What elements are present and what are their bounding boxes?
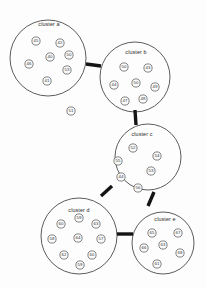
cluster-label-d: cluster d (68, 207, 89, 213)
node-label-63e: 63 (161, 242, 166, 247)
node-d-59[interactable]: 59 (75, 214, 83, 222)
node-label-53: 53 (65, 67, 70, 72)
node-label-43: 43 (146, 65, 151, 70)
node-label-46: 46 (27, 61, 32, 66)
node-c-56[interactable]: 56 (134, 184, 142, 192)
node-e-66[interactable]: 66 (140, 244, 148, 252)
node-label-57: 57 (99, 236, 104, 241)
node-label-62: 62 (62, 252, 67, 257)
node-a-50[interactable]: 50 (65, 51, 73, 59)
node-b-48[interactable]: 48 (139, 95, 147, 103)
node-label-60d: 60 (90, 252, 95, 257)
node-label-65: 65 (150, 230, 155, 235)
node-c-52[interactable]: 52 (129, 144, 137, 152)
node-b-47[interactable]: 47 (121, 97, 129, 105)
node-e-63e[interactable]: 63 (159, 241, 167, 249)
node-b-44[interactable]: 44 (110, 81, 118, 89)
node-label-54: 54 (155, 153, 160, 158)
node-label-41: 41 (45, 78, 50, 83)
node-b-49[interactable]: 49 (151, 83, 159, 91)
node-d-60d[interactable]: 60 (88, 251, 96, 259)
node-c-53c[interactable]: 53 (147, 167, 155, 175)
node-label-51: 51 (69, 108, 74, 113)
node-d-63[interactable]: 63 (92, 220, 100, 228)
node-label-45: 45 (34, 38, 39, 43)
node-e-68[interactable]: 68 (176, 249, 184, 257)
diagram-canvas: cluster acluster bcluster ccluster dclus… (0, 0, 207, 288)
node-a-46[interactable]: 46 (25, 60, 33, 68)
node-label-58: 58 (50, 236, 55, 241)
node-label-68: 68 (178, 250, 183, 255)
cluster-label-b: cluster b (125, 49, 146, 55)
node-label-50c: 50 (134, 80, 139, 85)
node-a-45[interactable]: 45 (32, 37, 40, 45)
node-b-50c[interactable]: 50 (132, 79, 140, 87)
node-d-58[interactable]: 58 (48, 235, 56, 243)
node-a-41[interactable]: 41 (43, 77, 51, 85)
node-label-53c: 53 (149, 168, 154, 173)
node-label-44: 44 (112, 82, 117, 87)
node-label-59d: 59 (78, 262, 83, 267)
node-label-56: 56 (136, 185, 141, 190)
node-label-67: 67 (176, 230, 181, 235)
node-label-59: 59 (77, 215, 82, 220)
node-c-54[interactable]: 54 (153, 152, 161, 160)
node-label-42: 42 (58, 40, 63, 45)
node-d-57[interactable]: 57 (97, 235, 105, 243)
node-label-64: 64 (76, 235, 81, 240)
node-label-48: 48 (141, 96, 146, 101)
node-label-52: 52 (131, 145, 136, 150)
cluster-label-e: cluster e (154, 216, 175, 222)
node-label-63: 63 (94, 221, 99, 226)
node-label-40: 40 (48, 54, 53, 59)
node-b-50b[interactable]: 50 (120, 63, 128, 71)
node-c-55[interactable]: 55 (114, 157, 122, 165)
cluster-edge-c-e[interactable] (148, 192, 154, 206)
node-d-62[interactable]: 62 (60, 251, 68, 259)
node-a-53[interactable]: 53 (63, 66, 71, 74)
cluster-graph: cluster acluster bcluster ccluster dclus… (0, 0, 207, 288)
node-label-47: 47 (123, 98, 128, 103)
node-b-43[interactable]: 43 (144, 64, 152, 72)
node-label-50b: 50 (122, 64, 127, 69)
node-c-44c[interactable]: 44 (117, 173, 125, 181)
cluster-edge-b-c[interactable] (135, 110, 136, 125)
cluster-label-a: cluster a (38, 21, 59, 27)
node-label-44c: 44 (119, 174, 124, 179)
node-label-61: 61 (155, 261, 160, 266)
node-d-64[interactable]: 64 (74, 234, 82, 242)
node-label-49: 49 (153, 84, 158, 89)
node-label-60: 60 (59, 221, 64, 226)
node-e-67[interactable]: 67 (174, 229, 182, 237)
node-label-55: 55 (116, 158, 121, 163)
node-d-59d[interactable]: 59 (76, 261, 84, 269)
node-a-42[interactable]: 42 (56, 39, 64, 47)
node-label-50: 50 (67, 52, 72, 57)
node-a-40[interactable]: 40 (46, 53, 54, 61)
cluster-edge-c-d[interactable] (101, 186, 112, 196)
node-e-65[interactable]: 65 (148, 229, 156, 237)
node-label-66: 66 (142, 245, 147, 250)
cluster-label-c: cluster c (132, 131, 153, 137)
node-e-61[interactable]: 61 (153, 260, 161, 268)
node-d-60[interactable]: 60 (57, 220, 65, 228)
cluster-edge-a-b[interactable] (86, 64, 101, 66)
isolated-node-51[interactable]: 51 (67, 107, 75, 115)
